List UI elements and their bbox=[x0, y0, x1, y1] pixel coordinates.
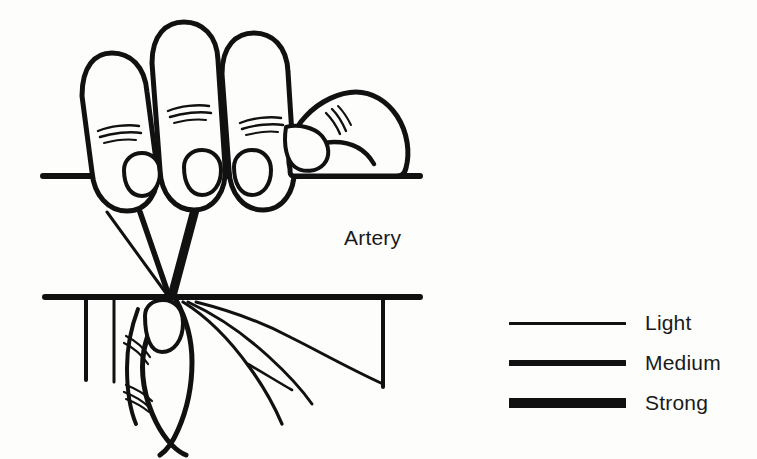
legend: Light Medium Strong bbox=[509, 303, 739, 423]
thumb-nail bbox=[145, 300, 183, 352]
artery-pressure-figure: Artery Light Medium Strong bbox=[0, 0, 757, 459]
thumb bbox=[124, 300, 192, 455]
little-finger bbox=[285, 92, 408, 176]
middle-nail bbox=[184, 150, 221, 195]
legend-swatch-medium-wrap bbox=[509, 360, 630, 366]
line-medium-icon bbox=[509, 360, 626, 366]
legend-item-medium: Medium bbox=[509, 343, 739, 383]
artery-label: Artery bbox=[344, 226, 401, 250]
legend-item-light: Light bbox=[509, 303, 739, 343]
line-thick-icon bbox=[509, 398, 626, 408]
index-nail bbox=[124, 153, 160, 196]
middle-finger bbox=[152, 22, 225, 210]
legend-item-strong: Strong bbox=[509, 383, 739, 423]
pressure-ray-strong bbox=[172, 206, 196, 296]
legend-swatch-strong-wrap bbox=[509, 398, 630, 408]
legend-label-medium: Medium bbox=[645, 351, 721, 375]
line-thin-icon bbox=[509, 322, 626, 325]
legend-label-strong: Strong bbox=[645, 391, 708, 415]
legend-label-light: Light bbox=[645, 311, 692, 335]
pressure-ray-medium bbox=[140, 212, 169, 296]
pressure-ray-light bbox=[107, 212, 168, 296]
ring-nail bbox=[234, 150, 271, 195]
palm-crease-lines bbox=[183, 302, 383, 424]
ring-finger bbox=[222, 33, 294, 210]
index-finger bbox=[82, 53, 160, 211]
legend-swatch-light-wrap bbox=[509, 322, 630, 325]
